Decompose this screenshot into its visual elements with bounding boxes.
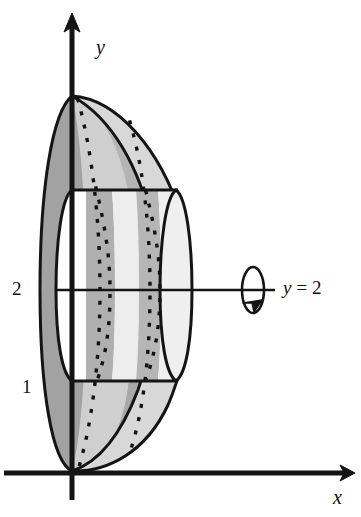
- figure-container: y x 2 1 y= 2: [0, 0, 361, 517]
- y-tick-label-1: 1: [22, 376, 32, 398]
- shell-band-shade-mid: [112, 190, 139, 381]
- y-axis-label: y: [96, 36, 105, 59]
- y-tick-label-2: 2: [12, 278, 22, 300]
- cylindrical-shell: [56, 190, 192, 381]
- axis-label-operator: = 2: [296, 277, 321, 298]
- x-axis-label: x: [333, 486, 342, 509]
- solid-of-revolution-diagram: [0, 0, 361, 517]
- shell-band-shade-left: [86, 190, 115, 381]
- axis-of-revolution-label: y= 2: [283, 277, 321, 299]
- axis-label-variable: y: [283, 277, 291, 298]
